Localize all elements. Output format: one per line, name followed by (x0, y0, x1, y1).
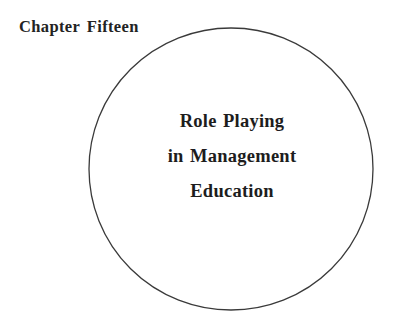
chapter-title-line-3: Education (89, 174, 375, 209)
chapter-title-line-2: in Management (89, 139, 375, 174)
chapter-title-line-1: Role Playing (89, 104, 375, 139)
chapter-title-block: Role Playing in Management Education (89, 104, 375, 209)
chapter-opening-page: Chapter Fifteen Role Playing in Manageme… (0, 0, 397, 317)
